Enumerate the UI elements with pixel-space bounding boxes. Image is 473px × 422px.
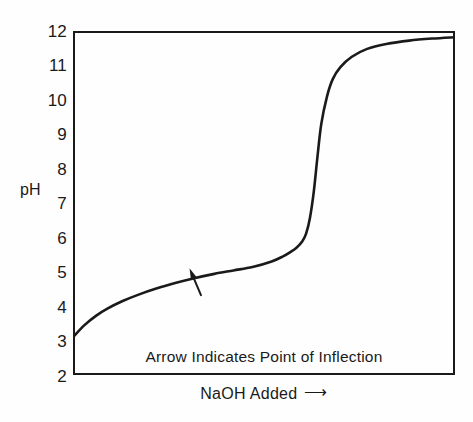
x-axis-title-text: NaOH Added	[200, 385, 297, 402]
inflection-caption: Arrow Indicates Point of Inflection	[73, 348, 455, 365]
y-tick-label: 6	[27, 230, 67, 247]
curve-layer	[73, 31, 455, 375]
y-tick-label: 11	[27, 57, 67, 74]
inflection-arrow-icon	[190, 268, 201, 295]
y-tick-label: 2	[27, 368, 67, 385]
y-tick-label: 3	[27, 333, 67, 350]
right-arrow-icon: ⟶	[304, 383, 327, 401]
y-tick-label: 8	[27, 161, 67, 178]
y-axis-title: pH	[20, 182, 41, 198]
y-tick-label: 5	[27, 264, 67, 281]
titration-chart-figure: 12 11 10 9 8 7 6 5 4 3 2 pH Arrow Indica…	[0, 0, 473, 422]
y-tick-label: 10	[27, 92, 67, 109]
titration-curve-line	[73, 37, 455, 337]
y-axis-tick-labels: 12 11 10 9 8 7 6 5 4 3 2	[22, 0, 67, 422]
x-axis-title: NaOH Added⟶	[73, 383, 455, 403]
y-tick-label: 4	[27, 299, 67, 316]
y-tick-label: 12	[27, 23, 67, 40]
y-tick-label: 9	[27, 126, 67, 143]
